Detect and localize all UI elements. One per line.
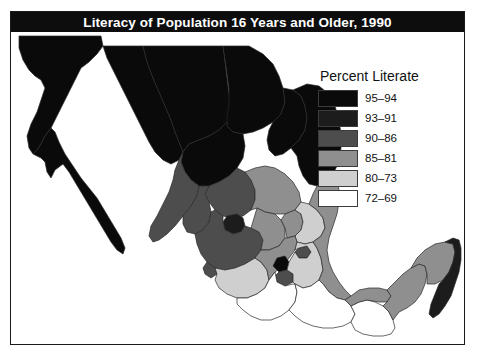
legend-swatch-90-86 xyxy=(318,130,358,147)
legend-label-72-69: 72–69 xyxy=(365,192,397,204)
region-campeche xyxy=(383,264,427,320)
map-title-bar: Literacy of Population 16 Years and Olde… xyxy=(11,12,464,32)
legend-swatch-85-81 xyxy=(318,150,358,167)
legend-title: Percent Literate xyxy=(320,68,428,84)
map-legend: Percent Literate 95–94 93–91 90–86 85–81… xyxy=(318,68,428,208)
region-baja-california xyxy=(19,36,103,154)
legend-label-80-73: 80–73 xyxy=(365,172,397,184)
legend-item: 72–69 xyxy=(318,188,428,208)
legend-item: 95–94 xyxy=(318,88,428,108)
legend-swatch-95-94 xyxy=(318,90,358,107)
legend-label-85-81: 85–81 xyxy=(365,152,397,164)
legend-label-95-94: 95–94 xyxy=(365,92,397,104)
legend-item: 90–86 xyxy=(318,128,428,148)
legend-label-90-86: 90–86 xyxy=(365,132,397,144)
region-oaxaca xyxy=(289,280,355,328)
legend-item: 85–81 xyxy=(318,148,428,168)
legend-item: 80–73 xyxy=(318,168,428,188)
page-title: Literacy of Population 16 Years and Olde… xyxy=(83,15,391,30)
region-baja-california-sur xyxy=(33,128,125,254)
legend-swatch-80-73 xyxy=(318,170,358,187)
legend-label-93-91: 93–91 xyxy=(365,112,397,124)
map-page: Literacy of Population 16 Years and Olde… xyxy=(0,0,481,362)
legend-swatch-93-91 xyxy=(318,110,358,127)
legend-item: 93–91 xyxy=(318,108,428,128)
legend-swatch-72-69 xyxy=(318,190,358,207)
